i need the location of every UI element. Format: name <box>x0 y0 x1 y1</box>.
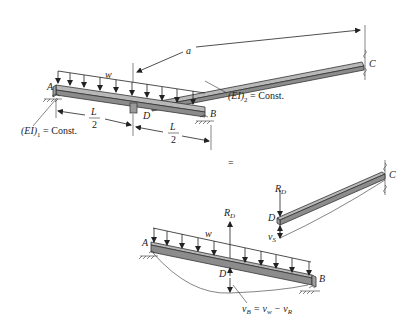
point-label-d-simple: D <box>218 268 227 279</box>
point-label-a: A <box>46 81 54 92</box>
l-half-numerator-2: L <box>169 121 176 132</box>
point-label-b: B <box>210 108 216 119</box>
point-label-d: D <box>142 110 151 121</box>
deflection-equation: vB = vw − vR <box>242 303 293 316</box>
svg-text:(EI)2 = Const.: (EI)2 = Const. <box>228 90 284 104</box>
bottom-right-cantilever: RD D C vS <box>267 160 396 244</box>
bottom-left-simple-beam: w RD D A B vB = vw − vR <box>139 207 325 316</box>
equals-sign: = <box>228 157 234 168</box>
point-label-c: C <box>369 58 376 69</box>
wall-c-icon <box>364 25 367 80</box>
l-half-denominator-1: 2 <box>92 119 97 130</box>
beam-diagram: w A B C D a <box>0 0 415 329</box>
dimension-label-a: a <box>186 45 191 56</box>
load-label-w: w <box>105 69 112 80</box>
svg-text:vS: vS <box>268 231 276 244</box>
point-label-a-lower: A <box>141 237 149 248</box>
point-label-d-cantilever: D <box>267 212 276 223</box>
top-figure: w A B C D a <box>21 25 376 150</box>
point-label-c-cantilever: C <box>389 169 396 180</box>
l-half-denominator-2: 2 <box>171 134 176 145</box>
svg-text:RD: RD <box>223 207 235 220</box>
load-label-w-lower: w <box>205 228 212 239</box>
svg-text:(EI)1 = Const.: (EI)1 = Const. <box>21 125 77 139</box>
point-label-b-lower: B <box>319 273 325 284</box>
l-half-numerator-1: L <box>90 106 97 117</box>
ei1-label: (EI)1 = Const. <box>21 98 77 139</box>
support-post-d <box>130 103 137 113</box>
pin-support-b-lower-icon <box>299 286 320 294</box>
